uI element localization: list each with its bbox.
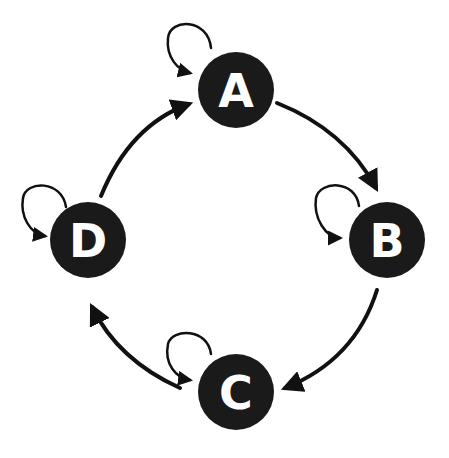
node-c-label: C — [219, 366, 253, 420]
self-loop-a — [168, 24, 211, 73]
node-d-label: D — [69, 214, 107, 268]
node-b-label: B — [369, 214, 404, 268]
state-diagram: A B C D — [0, 0, 449, 458]
node-c: C — [198, 354, 274, 430]
node-b: B — [349, 202, 425, 278]
node-d: D — [50, 202, 126, 278]
node-a: A — [198, 52, 274, 128]
edge-a-to-b — [277, 103, 376, 188]
edge-b-to-c — [285, 290, 377, 388]
edge-d-to-a — [101, 104, 189, 196]
node-a-label: A — [218, 64, 254, 118]
